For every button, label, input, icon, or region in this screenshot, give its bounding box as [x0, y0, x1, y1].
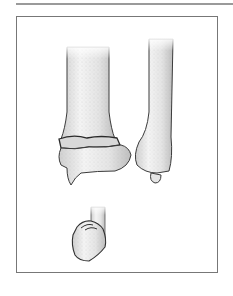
ulna-shaft: [135, 37, 175, 173]
top-rule-divider: [16, 3, 233, 5]
bone-fracture-illustration: [17, 17, 219, 274]
radius-shaft: [61, 45, 115, 139]
detached-fragment: [72, 221, 105, 261]
figure-frame: [16, 16, 218, 273]
distal-fragment: [59, 145, 131, 185]
ulna-styloid: [151, 173, 162, 183]
